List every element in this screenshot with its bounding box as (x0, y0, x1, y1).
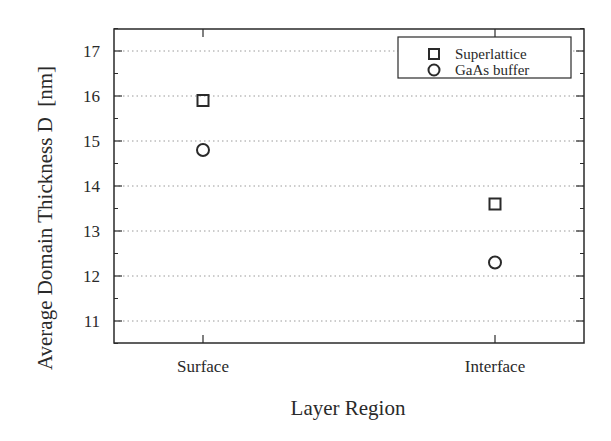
y-tick-label: 11 (84, 312, 100, 331)
y-tick-label: 17 (83, 42, 101, 61)
legend-label-superlattice: Superlattice (455, 46, 527, 62)
legend: Superlattice GaAs buffer (398, 37, 571, 78)
grid-lines (114, 51, 584, 321)
x-tick-label: Surface (177, 357, 229, 376)
data-point-circle (489, 257, 501, 269)
legend-label-gaas-buffer: GaAs buffer (455, 62, 529, 78)
chart: 11121314151617 SurfaceInterface Layer Re… (0, 0, 611, 441)
x-tick-label: Interface (465, 357, 525, 376)
y-tick-label: 15 (83, 132, 100, 151)
data-points (197, 95, 501, 269)
data-point-square (490, 199, 501, 210)
y-tick-label: 16 (83, 87, 100, 106)
x-axis-ticks: SurfaceInterface (177, 29, 525, 376)
y-axis-title: Average Domain Thickness D [nm] (33, 66, 57, 370)
x-axis-title: Layer Region (291, 396, 406, 420)
data-point-square (198, 95, 209, 106)
data-point-circle (197, 144, 209, 156)
y-tick-label: 13 (83, 222, 100, 241)
y-tick-label: 14 (83, 177, 101, 196)
y-tick-label: 12 (83, 267, 100, 286)
